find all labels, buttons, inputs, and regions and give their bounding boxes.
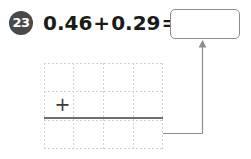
grid-vline-4 xyxy=(162,63,163,149)
answer-input-box[interactable] xyxy=(170,9,240,39)
grid-hline-0 xyxy=(44,63,163,64)
grid-plus-sign: + xyxy=(54,96,71,113)
grid-vline-1 xyxy=(73,63,74,149)
sum-rule-line xyxy=(44,117,163,119)
plus-operator: + xyxy=(92,11,111,35)
addend-1: 0.46 xyxy=(43,11,92,35)
grid-hline-1 xyxy=(44,91,163,92)
addend-2: 0.29 xyxy=(111,11,160,35)
problem-number-badge: 23 xyxy=(9,11,33,35)
grid-vline-2 xyxy=(103,63,104,149)
grid-hline-3 xyxy=(44,148,163,149)
equation-expression: 0.46 + 0.29 = xyxy=(43,10,179,36)
worksheet-problem-page: 23 0.46 + 0.29 = + xyxy=(0,0,251,159)
grid-vline-0 xyxy=(44,63,45,149)
grid-hline-2 xyxy=(44,120,163,121)
grid-vline-3 xyxy=(133,63,134,149)
up-arrow-icon xyxy=(199,40,207,48)
